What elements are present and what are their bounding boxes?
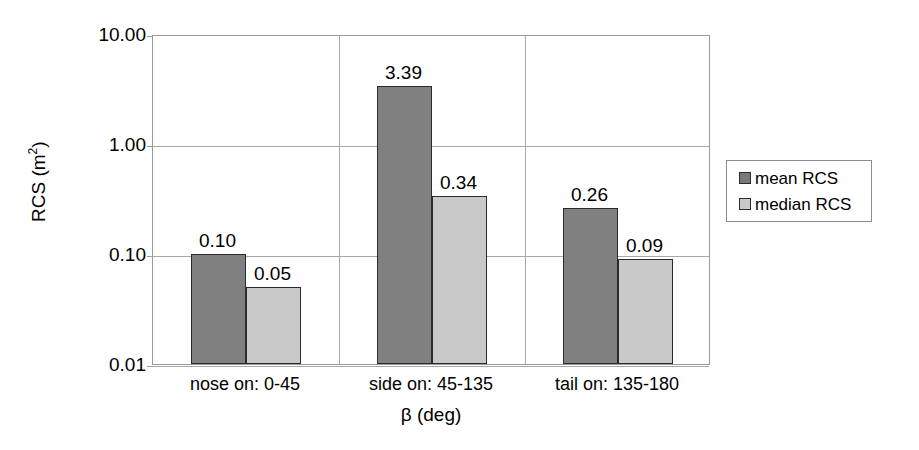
- y-axis-tick-mark: [147, 146, 153, 147]
- y-axis-tick-label: 0.01: [74, 355, 146, 374]
- bar-value-label: 3.39: [364, 63, 443, 82]
- legend-swatch-mean-icon: [739, 172, 751, 184]
- y-axis-title-superscript: 2: [26, 148, 40, 155]
- legend: mean RCS median RCS: [726, 160, 872, 222]
- y-axis-tick-labels: 10.001.000.100.01: [74, 0, 146, 450]
- x-axis-category-label: side on: 45-135: [338, 374, 524, 394]
- bar-value-label: 0.10: [178, 231, 257, 250]
- gridline-category-divider: [339, 36, 340, 364]
- x-axis-title: β (deg): [152, 404, 710, 426]
- legend-label-median: median RCS: [755, 196, 851, 213]
- legend-label-mean: mean RCS: [755, 170, 838, 187]
- x-axis-category-label: tail on: 135-180: [524, 374, 710, 394]
- bar-median[interactable]: [432, 196, 487, 364]
- y-axis-tick-mark: [147, 366, 153, 367]
- y-axis-tick-label: 1.00: [74, 135, 146, 154]
- y-axis-tick-label: 0.10: [74, 245, 146, 264]
- y-axis-tick-mark: [147, 256, 153, 257]
- y-axis-tick-label: 10.00: [74, 25, 146, 44]
- legend-item-mean-rcs[interactable]: mean RCS: [739, 167, 838, 189]
- gridline-horizontal: [153, 366, 709, 367]
- bar-median[interactable]: [618, 259, 673, 364]
- bar-mean[interactable]: [377, 86, 432, 364]
- y-axis-tick-mark: [147, 36, 153, 37]
- gridline-category-divider: [525, 36, 526, 364]
- x-axis-category-label: nose on: 0-45: [152, 374, 338, 394]
- bar-value-label: 0.26: [550, 185, 629, 204]
- bar-value-label: 0.05: [233, 264, 312, 283]
- legend-item-median-rcs[interactable]: median RCS: [739, 193, 851, 215]
- rcs-bar-chart: RCS (m2) 10.001.000.100.01 nose on: 0-45…: [0, 0, 919, 450]
- bar-value-label: 0.09: [605, 236, 684, 255]
- bar-value-label: 0.34: [419, 173, 498, 192]
- legend-swatch-median-icon: [739, 198, 751, 210]
- y-axis-title-base: RCS (m: [28, 154, 49, 222]
- y-axis-title: RCS (m2): [26, 102, 49, 262]
- y-axis-title-tail: ): [28, 141, 49, 147]
- bar-median[interactable]: [246, 287, 301, 364]
- bar-mean[interactable]: [563, 208, 618, 364]
